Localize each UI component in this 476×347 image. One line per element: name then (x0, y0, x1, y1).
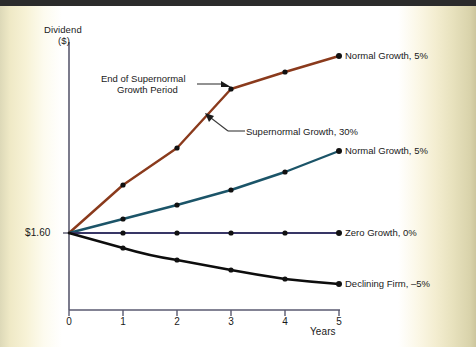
x-tick-label-1: 1 (113, 316, 133, 327)
series-point-zero (174, 230, 179, 235)
series-point-zero (120, 230, 125, 235)
x-axis-title: Years (310, 326, 336, 338)
series-point-declining (282, 276, 287, 281)
series-line-declining (69, 233, 339, 284)
series-point-declining (174, 257, 179, 262)
x-tick-label-2: 2 (167, 316, 187, 327)
annotation-end-supernormal-line1: End of Supernormal (101, 73, 186, 85)
series-point-supernormal (228, 86, 233, 91)
series-label-declining: Declining Firm, –5% (345, 278, 430, 289)
series-point-normal (228, 187, 233, 192)
annotation-leader-supernormal (205, 113, 245, 131)
y-axis-value-label: $1.60 (25, 227, 51, 239)
series-point-normal (174, 202, 179, 207)
y-axis-title-line2: ($) (58, 35, 70, 47)
series-point-normal (336, 148, 342, 154)
series-line-normal (69, 151, 339, 233)
series-label-zero: Zero Growth, 0% (345, 227, 417, 238)
x-tick-label-4: 4 (275, 316, 295, 327)
annotation-leader-end-supernormal (197, 81, 231, 87)
series-point-zero (336, 230, 342, 236)
series-point-zero (282, 230, 287, 235)
series-point-declining (228, 267, 233, 272)
x-tick-label-3: 3 (221, 316, 241, 327)
series-point-supernormal (282, 69, 287, 74)
series-point-supernormal (174, 145, 179, 150)
series-label-normal: Normal Growth, 5% (345, 145, 428, 156)
series-point-zero (228, 230, 233, 235)
series-point-normal (282, 169, 287, 174)
figure-container: Dividend ($) $1.60 0 1 2 3 4 5 Years Nor… (0, 0, 476, 347)
x-tick-label-0: 0 (59, 316, 79, 327)
series-point-normal (120, 216, 125, 221)
annotation-supernormal-callout: Supernormal Growth, 30% (246, 126, 358, 138)
series-point-supernormal (336, 53, 342, 59)
series-point-supernormal (120, 182, 125, 187)
annotation-end-supernormal-line2: Growth Period (117, 84, 178, 96)
series-label-supernormal-end: Normal Growth, 5% (345, 50, 428, 61)
y-axis-title-line1: Dividend (44, 24, 82, 36)
series-point-declining (120, 245, 125, 250)
series-point-declining (336, 281, 342, 287)
